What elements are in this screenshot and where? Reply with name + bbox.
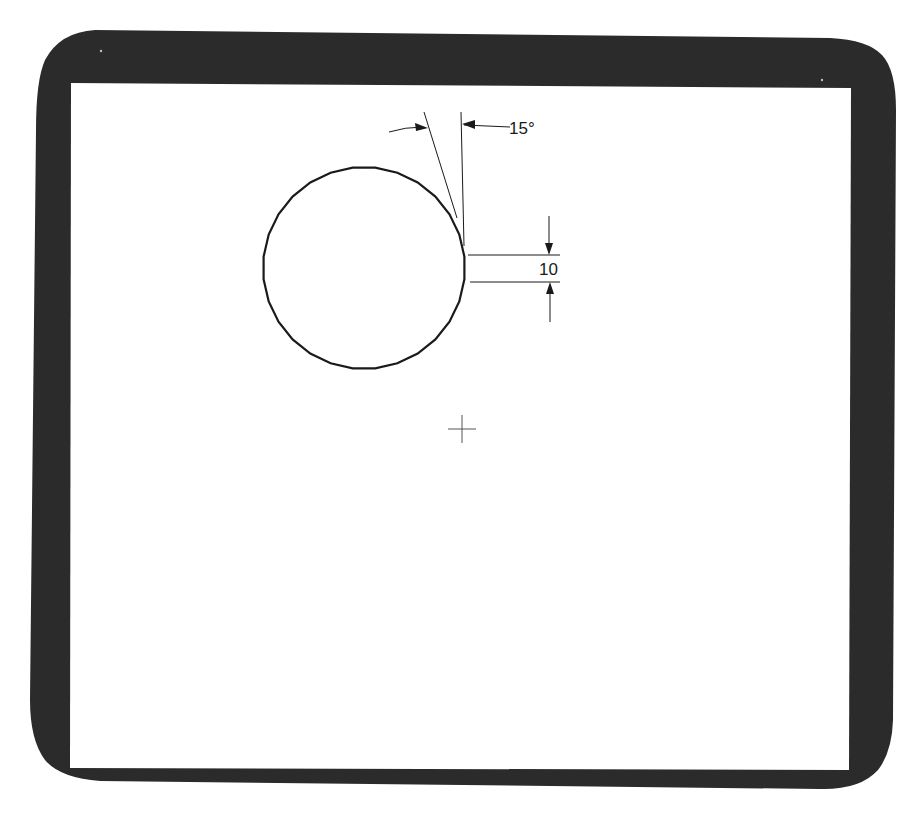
linear-dimension-label[interactable]: 10 — [539, 260, 558, 279]
cad-screen: 15° 10 — [0, 0, 911, 833]
monitor-bezel — [30, 30, 896, 789]
screen-area[interactable] — [70, 83, 851, 770]
bezel-speck — [100, 50, 102, 52]
angle-dimension-label[interactable]: 15° — [509, 119, 535, 138]
bezel-speck — [821, 79, 823, 81]
